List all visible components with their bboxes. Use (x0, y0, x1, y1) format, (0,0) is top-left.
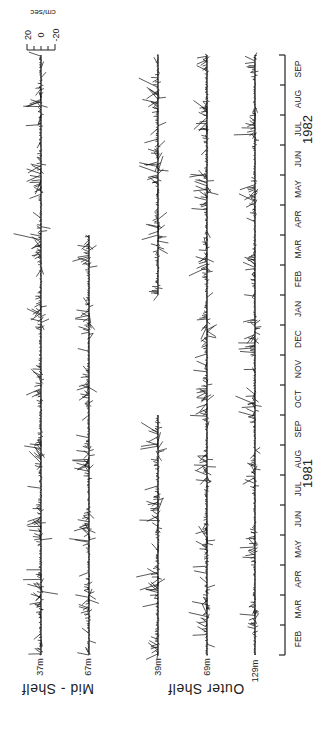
scale-label-zero: 0 (36, 27, 46, 43)
trace-129m (234, 53, 262, 655)
month-label-jun-1982: JUN (293, 147, 303, 171)
trace-39m (136, 54, 168, 660)
month-label-apr-1982: APR (293, 207, 303, 231)
time-axis (279, 55, 285, 655)
scale-label-pos: 20 (23, 27, 33, 43)
month-label-mar-1981: MAR (293, 597, 303, 621)
depth-label-39m: 39m (153, 654, 163, 680)
month-label-apr-1981: APR (293, 567, 303, 591)
month-label-feb-1982: FEB (293, 267, 303, 291)
month-label-mar-1982: MAR (293, 237, 303, 261)
month-label-may-1981: MAY (293, 537, 303, 561)
scale-label-neg: -20 (51, 26, 61, 44)
month-label-nov-1981: NOV (293, 357, 303, 381)
depth-label-37m: 37m (35, 654, 45, 680)
group-label-mid-shelf: Mid - Shelf (24, 681, 94, 697)
month-label-sep-1981: SEP (293, 417, 303, 441)
year-label-1982: 1982 (300, 115, 315, 145)
current-stick-plot-figure: 20 0 -20 cm/sec FEBMARAPRMAYJUNJULAUGSEP… (0, 0, 327, 737)
year-label-1981: 1981 (300, 459, 315, 489)
month-label-dec-1981: DEC (293, 327, 303, 351)
month-label-oct-1981: OCT (293, 387, 303, 411)
month-label-jun-1981: JUN (293, 507, 303, 531)
depth-label-69m: 69m (202, 654, 212, 680)
trace-37m (14, 52, 59, 655)
month-label-sep-1982: SEP (293, 57, 303, 81)
month-label-may-1982: MAY (293, 177, 303, 201)
trace-67m (69, 235, 99, 655)
month-label-feb-1981: FEB (293, 627, 303, 651)
month-label-aug-1982: AUG (293, 87, 303, 111)
group-label-outer-shelf: Outer Shelf (164, 681, 248, 697)
month-label-jan-1982: JAN (293, 297, 303, 321)
trace-69m (189, 54, 219, 656)
velocity-scale-bar (27, 44, 55, 50)
stick-plot-canvas (0, 0, 327, 737)
depth-label-129m: 129m (250, 655, 260, 687)
series-traces (14, 52, 262, 660)
scale-unit-label: cm/sec (28, 8, 58, 17)
depth-label-67m: 67m (83, 654, 93, 680)
